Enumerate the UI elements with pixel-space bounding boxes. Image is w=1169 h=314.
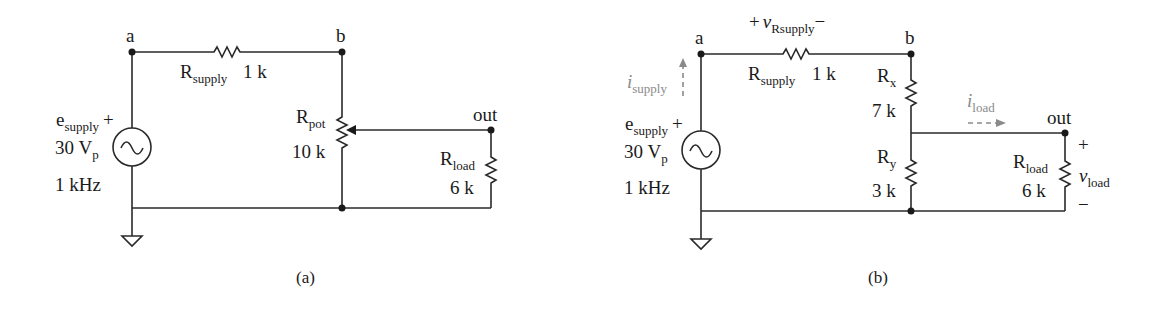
node-a <box>129 49 136 56</box>
r-supply-resistor-icon <box>701 49 911 59</box>
label-v-rsupply: +vRsupply− <box>749 11 825 36</box>
value-r-y: 3 k <box>872 180 896 201</box>
label-r-load: Rload <box>1013 151 1049 176</box>
node-a <box>698 51 705 58</box>
label-v-load-minus: − <box>1078 194 1089 215</box>
node-bottom <box>908 208 915 215</box>
label-v-load: vload <box>1079 165 1110 190</box>
label-node-a: a <box>695 27 704 48</box>
label-frequency: 1 kHz <box>55 174 101 195</box>
wiper-arrow-icon <box>346 125 356 135</box>
value-r-load: 6 k <box>450 177 474 198</box>
ground-icon <box>691 239 711 249</box>
label-r-supply: Rsupply <box>180 61 228 86</box>
r-load-resistor-icon <box>1060 133 1070 211</box>
label-r-load: Rload <box>440 148 476 173</box>
ac-source-icon <box>682 131 720 169</box>
value-r-pot: 10 k <box>292 141 326 162</box>
label-frequency: 1 kHz <box>624 177 670 198</box>
circuit-diagrams: a b out Rsupply 1 k esupply+ 30 Vp 1 kHz… <box>0 0 1169 314</box>
label-e-supply: esupply+ <box>56 109 114 134</box>
label-r-y: Ry <box>877 146 897 171</box>
label-amplitude: 30 Vp <box>624 141 668 166</box>
node-out <box>488 127 495 134</box>
r-supply-resistor-icon <box>132 47 342 57</box>
label-amplitude: 30 Vp <box>55 137 99 162</box>
label-node-b: b <box>905 27 915 48</box>
node-b <box>339 49 346 56</box>
label-i-load: iload <box>967 90 995 115</box>
label-r-x: Rx <box>877 65 897 90</box>
ac-source-icon <box>113 128 151 166</box>
label-node-out: out <box>473 104 498 125</box>
value-r-supply: 1 k <box>812 63 836 84</box>
label-node-a: a <box>126 25 135 46</box>
node-bottom <box>339 205 346 212</box>
label-i-supply: isupply <box>627 71 667 96</box>
caption-a: (a) <box>296 268 315 287</box>
value-r-x: 7 k <box>872 100 896 121</box>
arrowhead-icon <box>679 58 687 67</box>
label-v-load-plus: + <box>1078 134 1089 155</box>
label-r-pot: Rpot <box>296 106 326 131</box>
label-node-out: out <box>1047 107 1072 128</box>
value-r-load: 6 k <box>1022 180 1046 201</box>
label-node-b: b <box>336 25 346 46</box>
r-load-resistor-icon <box>486 130 496 208</box>
ground-icon <box>122 236 142 246</box>
caption-b: (b) <box>868 268 888 287</box>
circuit-a: a b out Rsupply 1 k esupply+ 30 Vp 1 kHz… <box>55 25 498 287</box>
value-r-supply: 1 k <box>243 61 267 82</box>
circuit-b: a b out +vRsupply− Rsupply 1 k isupply e… <box>624 11 1110 287</box>
label-e-supply: esupply+ <box>625 113 683 138</box>
label-r-supply: Rsupply <box>748 63 796 88</box>
arrowhead-icon <box>996 119 1006 127</box>
node-out <box>1062 130 1069 137</box>
node-b <box>908 51 915 58</box>
pot-resistor-icon <box>337 52 347 208</box>
